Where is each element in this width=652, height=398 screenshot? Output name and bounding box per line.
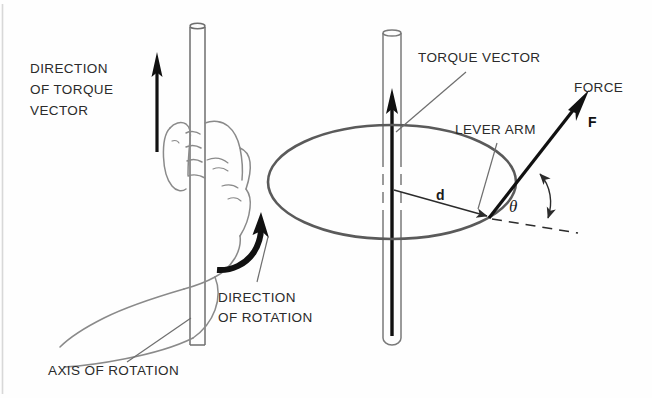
right-hand-rule-illustration: DIRECTION OF TORQUE VECTOR DIRECTION OF … — [30, 23, 313, 378]
label-direction-of-rotation-line2: OF ROTATION — [218, 310, 313, 325]
torque-direction-arrow — [152, 52, 163, 152]
label-direction-of-torque-vector-line1: DIRECTION — [30, 61, 108, 76]
label-force-symbol: F — [588, 114, 597, 130]
label-angle-symbol: θ — [509, 197, 517, 216]
label-direction-of-torque-vector-line2: OF TORQUE — [30, 82, 113, 97]
theta-angle-arc — [540, 174, 551, 218]
left-rod-axis — [190, 23, 205, 345]
figure-canvas: DIRECTION OF TORQUE VECTOR DIRECTION OF … — [0, 0, 652, 398]
label-direction-of-torque-vector-line3: VECTOR — [30, 103, 88, 118]
leader-lever-arm — [478, 143, 497, 209]
hand-illustration — [60, 121, 250, 367]
label-lever-arm: LEVER ARM — [455, 122, 536, 137]
label-lever-arm-symbol: d — [436, 187, 445, 203]
line-of-action-dashed — [492, 219, 578, 233]
label-force: FORCE — [574, 80, 623, 95]
label-axis-of-rotation: AXIS OF ROTATION — [48, 363, 179, 378]
torque-vector-diagram: TORQUE VECTOR LEVER ARM FORCE F d θ — [268, 30, 623, 345]
label-direction-of-rotation-line1: DIRECTION — [218, 290, 296, 305]
force-vector-arrow — [489, 90, 589, 218]
rotation-direction-arrow — [217, 212, 269, 270]
physics-torque-figure: DIRECTION OF TORQUE VECTOR DIRECTION OF … — [0, 0, 652, 398]
label-torque-vector: TORQUE VECTOR — [418, 50, 540, 65]
leader-axis-of-rotation — [127, 318, 191, 362]
